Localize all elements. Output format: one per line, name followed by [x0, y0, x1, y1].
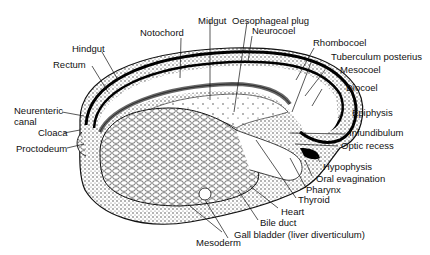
label-bile-duct: Bile duct	[260, 217, 297, 228]
label-midgut: Midgut	[198, 15, 227, 26]
label-rhombocoel: Rhombocoel	[313, 37, 366, 48]
label-mesocoel: Mesocoel	[340, 64, 381, 75]
label-optic-recess: Optic recess	[341, 140, 394, 151]
label-neurocoel: Neurocoel	[252, 25, 295, 36]
label-diocoel: Diocoel	[346, 82, 378, 93]
label-neurenteric: Neurenteric	[14, 105, 63, 116]
label-epiphysis: Epiphysis	[352, 107, 393, 118]
label-heart: Heart	[281, 206, 305, 217]
label-tuberculum-posterius: Tuberculum posterius	[331, 51, 422, 62]
label-hypophysis: Hypophysis	[323, 161, 372, 172]
label-oral-evagination: Oral evagination	[316, 173, 385, 184]
label-gall-bladder: Gall bladder (liver diverticulum)	[234, 229, 365, 240]
embryo-diagram: Midgut Notochord Oesophageal plug Neuroc…	[0, 0, 430, 255]
label-notochord: Notochord	[140, 27, 184, 38]
label-canal: canal	[14, 116, 37, 127]
label-hindgut: Hindgut	[72, 43, 105, 54]
label-cloaca: Cloaca	[38, 127, 68, 138]
label-rectum: Rectum	[53, 59, 86, 70]
label-thyroid: Thyroid	[298, 194, 330, 205]
label-proctodeum: Proctodeum	[16, 143, 67, 154]
label-infundibulum: Infundibulum	[349, 127, 403, 138]
